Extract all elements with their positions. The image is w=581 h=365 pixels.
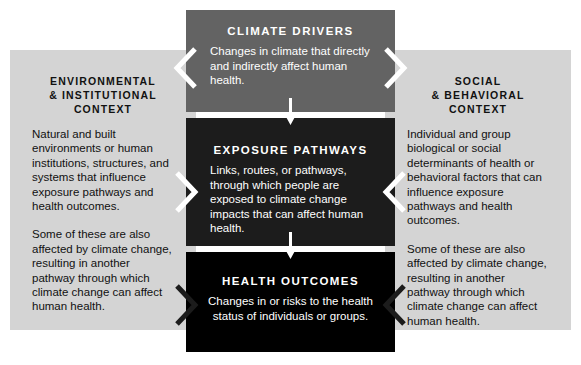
left-panel-paragraph-1: Natural and built environments or human … [32, 127, 174, 213]
exposure-pathways-node: EXPOSURE PATHWAYS Links, routes, or path… [186, 118, 395, 246]
chevron-right-icon [169, 169, 203, 215]
climate-health-framework-diagram: ENVIRONMENTAL & INSTITUTIONAL CONTEXT Na… [0, 0, 581, 365]
climate-drivers-body: Changes in climate that directly and ind… [202, 44, 379, 88]
chevron-right-icon [169, 282, 203, 328]
chevron-right-icon [378, 45, 412, 91]
social-behavioral-context-panel: SOCIAL & BEHAVIORAL CONTEXT Individual a… [385, 50, 571, 330]
right-panel-title: SOCIAL & BEHAVIORAL CONTEXT [407, 74, 549, 116]
exposure-pathways-body: Links, routes, or pathways, through whic… [202, 163, 379, 236]
left-panel-title: ENVIRONMENTAL & INSTITUTIONAL CONTEXT [32, 74, 174, 116]
chevron-left-icon [169, 45, 203, 91]
climate-drivers-node: CLIMATE DRIVERS Changes in climate that … [186, 10, 395, 112]
health-outcomes-body: Changes in or risks to the health status… [202, 294, 379, 323]
right-panel-paragraph-2: Some of these are also affected by clima… [407, 242, 549, 328]
right-panel-paragraph-1: Individual and group biological or socia… [407, 127, 549, 228]
chevron-left-icon [378, 282, 412, 328]
chevron-left-icon [378, 169, 412, 215]
climate-drivers-title: CLIMATE DRIVERS [202, 10, 379, 38]
down-arrow-icon [285, 232, 296, 260]
health-outcomes-node: HEALTH OUTCOMES Changes in or risks to t… [186, 252, 395, 352]
left-panel-paragraph-2: Some of these are also affected by clima… [32, 227, 174, 313]
down-arrow-icon [285, 98, 296, 126]
